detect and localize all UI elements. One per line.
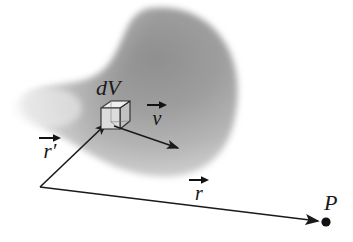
blob-lowlight-wash	[14, 88, 82, 128]
vector-label-r: r	[186, 175, 212, 203]
vector-label-v: v	[144, 100, 170, 128]
vector-arrow-overbar-icon	[35, 133, 65, 142]
vector-symbol-r: r	[186, 183, 212, 203]
vector-r	[40, 187, 318, 221]
volume-element-cube	[101, 101, 130, 129]
vector-label-r-prime: r′	[35, 133, 65, 162]
vector-arrow-overbar-icon	[186, 175, 212, 184]
volume-element-label: dV	[96, 77, 120, 99]
vector-arrow-overbar-icon	[144, 100, 170, 109]
vector-diagram-svg	[0, 0, 353, 242]
figure-canvas: dV P r′ v r	[0, 0, 353, 242]
vector-symbol-r-prime: r′	[35, 141, 65, 162]
field-point-P	[321, 217, 330, 226]
vector-symbol-v: v	[144, 108, 170, 128]
field-point-label: P	[324, 192, 337, 214]
